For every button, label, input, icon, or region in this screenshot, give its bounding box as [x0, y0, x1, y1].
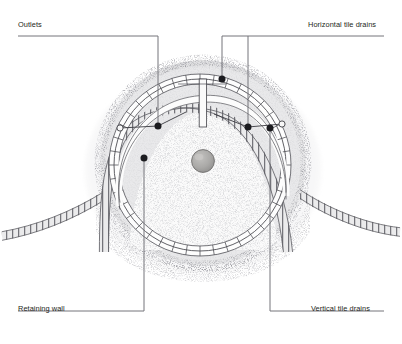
left-wall-wing — [2, 192, 104, 241]
dot-vert — [267, 125, 274, 132]
label-outlets: Outlets — [18, 20, 42, 29]
label-horizontal-tile-drains: Horizontal tile drains — [308, 20, 376, 29]
diagram-canvas: Outlets Horizontal tile drains Retaining… — [0, 0, 402, 344]
dot-outlets — [155, 123, 162, 130]
dot-horiz-b — [245, 124, 252, 131]
label-vertical-tile-drains: Vertical tile drains — [311, 304, 370, 313]
center-stone — [192, 150, 215, 173]
dot-horiz-a — [219, 76, 226, 83]
dot-retaining — [141, 155, 148, 162]
label-retaining-wall: Retaining wall — [18, 304, 65, 313]
drainage-mound-diagram — [0, 0, 402, 344]
